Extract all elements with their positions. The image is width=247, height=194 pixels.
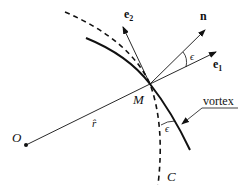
origin-label: O [12, 130, 22, 145]
origin-point [24, 143, 28, 147]
curve-c-label: C [167, 169, 176, 184]
angle-bottom-label: ϵ [165, 123, 170, 134]
vortex-diagram: O M r̂ e2 n e1 ϵ ϵ vortex C [0, 0, 247, 194]
dashed-curve-c [65, 12, 160, 185]
e1-label: e1 [213, 57, 222, 73]
e2-vector [123, 27, 150, 84]
radial-label: r̂ [92, 117, 97, 129]
n-label: n [200, 9, 207, 23]
n-vector [150, 30, 205, 84]
point-m-label: M [132, 92, 145, 107]
vortex-label: vortex [203, 94, 234, 108]
angle-top-label: ϵ [190, 51, 195, 62]
angle-arc-top [183, 52, 187, 67]
diagram-svg: O M r̂ e2 n e1 ϵ ϵ vortex C [0, 0, 247, 194]
e2-label: e2 [124, 7, 133, 23]
e1-vector [150, 52, 216, 84]
radial-line [26, 84, 150, 145]
vortex-leader-line [182, 108, 238, 124]
